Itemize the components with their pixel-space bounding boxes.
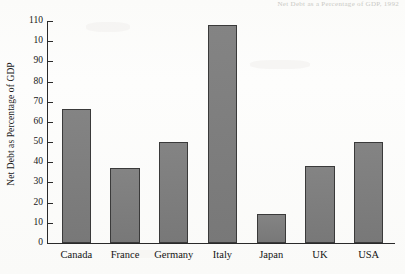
y-axis-tick-labels: 010203040506070809010110 — [0, 21, 43, 243]
bar-uk — [305, 166, 334, 243]
y-tick-label: 20 — [34, 198, 44, 208]
category-label-canada: Canada — [52, 248, 101, 262]
bar-germany — [159, 142, 188, 243]
y-tick-label: 70 — [34, 97, 44, 107]
bar-japan — [257, 214, 286, 242]
category-label-france: France — [101, 248, 150, 262]
y-tick-label: 10 — [34, 36, 44, 46]
y-tick-label: 110 — [29, 16, 43, 26]
y-tick-label: 90 — [34, 56, 44, 66]
category-label-uk: UK — [296, 248, 345, 262]
bar-france — [110, 168, 139, 243]
x-axis-category-labels: CanadaFranceGermanyItalyJapanUKUSA — [52, 248, 393, 270]
bar-series — [52, 21, 393, 243]
category-label-japan: Japan — [247, 248, 296, 262]
y-tick-label: 0 — [38, 238, 43, 248]
bar-italy — [208, 25, 237, 243]
y-tick-label: 30 — [34, 177, 44, 187]
y-tick-label: 80 — [34, 77, 44, 87]
category-label-germany: Germany — [149, 248, 198, 262]
bar-chart: Net Debt as Percentage of GDP 0102030405… — [0, 0, 405, 274]
category-label-italy: Italy — [198, 248, 247, 262]
bar-usa — [354, 142, 383, 243]
category-label-usa: USA — [344, 248, 393, 262]
y-tick-label: 40 — [34, 157, 44, 167]
y-tick-label: 10 — [34, 218, 44, 228]
x-axis-line — [47, 243, 395, 244]
y-tick-label: 50 — [34, 137, 44, 147]
bar-canada — [62, 109, 91, 242]
y-tick-label: 60 — [34, 117, 44, 127]
